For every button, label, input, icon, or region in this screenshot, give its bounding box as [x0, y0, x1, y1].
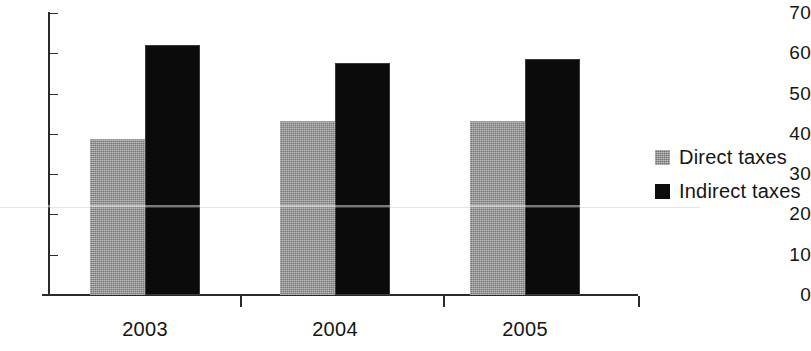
bar-2003-indirect-taxes [145, 45, 200, 295]
plot-area [48, 13, 638, 295]
bar-2004-indirect-taxes [335, 63, 390, 295]
legend-entry-direct-taxes[interactable]: Direct taxes [655, 140, 801, 174]
gray-square-swatch [655, 150, 670, 165]
y-axis-tick-label: 70 [771, 3, 811, 22]
x-axis-tick [638, 296, 640, 307]
bar-2003-direct-taxes [90, 139, 145, 295]
x-axis-category-label: 2004 [290, 318, 380, 340]
y-axis-tick-label: 0 [771, 285, 811, 304]
legend-label: Direct taxes [679, 146, 787, 168]
y-axis-tick-label: 10 [771, 245, 811, 264]
y-axis-tick-label: 60 [771, 43, 811, 62]
bar-chart: 010203040506070 200320042005 Direct taxe… [0, 0, 811, 351]
bar-2004-direct-taxes [280, 121, 335, 295]
bar-2005-direct-taxes [470, 121, 525, 295]
x-axis-category-label: 2003 [100, 318, 190, 340]
chart-legend: Direct taxesIndirect taxes [655, 140, 801, 208]
x-axis-category-label: 2005 [480, 318, 570, 340]
x-axis-tick [443, 296, 445, 307]
x-axis-tick [240, 296, 242, 307]
legend-label: Indirect taxes [679, 180, 801, 202]
black-square-swatch [655, 184, 670, 199]
legend-entry-indirect-taxes[interactable]: Indirect taxes [655, 174, 801, 208]
bar-2005-indirect-taxes [525, 59, 580, 295]
y-axis-tick-label: 50 [771, 84, 811, 103]
